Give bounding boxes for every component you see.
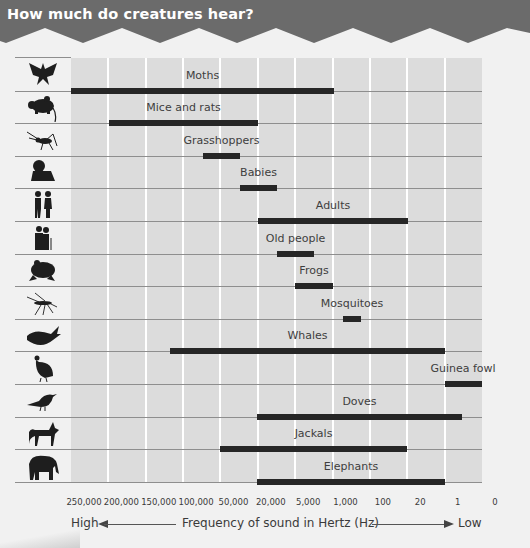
range-bar (343, 316, 361, 322)
x-tick-label: 100 (375, 497, 391, 507)
arrow-line-left (104, 524, 176, 525)
low-label: Low (458, 516, 482, 530)
bar-label: Mice and rats (146, 101, 220, 114)
chart-header: How much do creatures hear? (0, 0, 530, 48)
page-curl-shadow (0, 530, 80, 548)
range-bar (109, 120, 258, 126)
old-people-icon (15, 221, 71, 253)
x-tick-label: 5,000 (296, 497, 320, 507)
x-tick-label: 50,000 (219, 497, 249, 507)
x-tick-label: 20,000 (256, 497, 286, 507)
whale-icon (15, 319, 71, 351)
x-tick-label: 250,000 (66, 497, 101, 507)
bar-label: Frogs (299, 264, 328, 277)
range-bar (240, 185, 277, 191)
arrow-line-right (372, 524, 448, 525)
bar-label: Jackals (295, 427, 333, 440)
chart-title: How much do creatures hear? (7, 6, 254, 22)
range-bar (71, 88, 334, 94)
x-tick-label: 100,000 (179, 497, 214, 507)
x-tick-label: 1 (455, 497, 460, 507)
x-tick-label: 20 (415, 497, 426, 507)
range-bar (170, 348, 445, 354)
baby-icon (15, 156, 71, 188)
row-divider (15, 319, 482, 320)
bar-label: Grasshoppers (184, 134, 260, 147)
frog-icon (15, 254, 71, 286)
x-axis-title: Frequency of sound in Hertz (Hz) (182, 516, 379, 530)
bar-label: Adults (316, 199, 350, 212)
range-bar (203, 153, 240, 159)
range-bar (257, 479, 445, 485)
guinea-fowl-icon (15, 351, 71, 383)
dove-icon (15, 384, 71, 416)
range-bar (220, 446, 407, 452)
bar-label: Mosquitoes (321, 297, 384, 310)
bar-label: Whales (287, 329, 327, 342)
range-bar (258, 218, 408, 224)
arrow-right-icon (444, 520, 454, 528)
grasshopper-icon (15, 123, 71, 155)
x-tick-label: 200,000 (104, 497, 139, 507)
range-bar (257, 414, 462, 420)
mosquito-icon (15, 286, 71, 318)
bar-label: Elephants (324, 460, 378, 473)
bar-label: Moths (186, 69, 219, 82)
range-bar (277, 251, 314, 257)
mouse-icon (15, 91, 71, 123)
bar-label: Guinea fowl (430, 362, 495, 375)
bar-label: Old people (266, 232, 325, 245)
x-tick-label: 0 (492, 497, 497, 507)
bar-label: Doves (342, 395, 376, 408)
row-divider (15, 156, 482, 157)
high-label: High (71, 516, 99, 530)
range-bar (445, 381, 482, 387)
range-bar (295, 283, 333, 289)
x-tick-label: 150,000 (141, 497, 176, 507)
x-tick-label: 1,000 (333, 497, 357, 507)
bar-label: Babies (240, 166, 277, 179)
row-divider (15, 384, 482, 385)
adults-icon (15, 188, 71, 220)
moth-icon (15, 58, 71, 90)
jackal-icon (15, 417, 71, 449)
row-divider (15, 286, 482, 287)
elephant-icon (15, 449, 71, 481)
row-divider (15, 221, 482, 222)
row-divider (15, 254, 482, 255)
